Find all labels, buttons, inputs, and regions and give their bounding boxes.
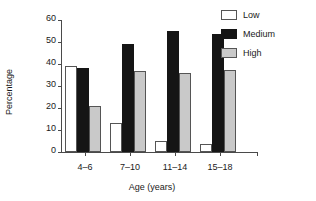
bar-high-0 (89, 106, 101, 152)
y-tick-label: 20 (46, 101, 56, 111)
legend-item-high: High (221, 46, 313, 62)
y-tick-label: 50 (46, 35, 56, 45)
y-tick-mark (58, 152, 62, 153)
legend-item-medium: Medium (221, 27, 313, 43)
y-tick-mark (58, 64, 62, 65)
x-axis-line (61, 152, 258, 153)
bar-medium-1 (122, 44, 134, 152)
y-tick-mark (58, 108, 62, 109)
x-axis-tick (130, 152, 131, 156)
y-tick-label: 60 (46, 13, 56, 23)
x-axis-label: 15–18 (207, 162, 232, 172)
y-tick-mark (58, 20, 62, 21)
y-tick-label: 40 (46, 57, 56, 67)
plot-area: 0102030405060 (62, 20, 242, 152)
legend-label-high: High (243, 46, 262, 60)
y-tick-label: 10 (46, 123, 56, 133)
x-axis-label: 7–10 (120, 162, 140, 172)
bar-low-3 (200, 144, 212, 152)
x-axis-title: Age (years) (62, 182, 242, 192)
x-axis-tick (220, 152, 221, 156)
y-tick-mark (58, 86, 62, 87)
bar-low-2 (155, 141, 167, 152)
chart-legend: Low Medium High (221, 8, 313, 65)
bar-chart-figure: Percentage 0102030405060 Age (years) Low… (0, 0, 316, 201)
bar-medium-0 (77, 68, 89, 152)
bar-low-0 (65, 66, 77, 152)
legend-label-medium: Medium (243, 27, 275, 41)
y-tick-label: 0 (51, 145, 56, 155)
y-axis-title: Percentage (2, 42, 16, 142)
x-axis-tick (175, 152, 176, 156)
bar-high-2 (179, 73, 191, 152)
bar-high-1 (134, 71, 146, 152)
bar-high-3 (224, 70, 236, 153)
y-tick-mark (58, 130, 62, 131)
y-tick-label: 30 (46, 79, 56, 89)
legend-swatch-high (221, 48, 237, 58)
y-axis-title-label: Percentage (2, 42, 16, 142)
legend-swatch-medium (221, 29, 237, 39)
y-tick-mark (58, 42, 62, 43)
x-axis-tick (85, 152, 86, 156)
x-axis-label: 11–14 (163, 162, 187, 172)
x-axis-tick-end (257, 152, 258, 156)
legend-item-low: Low (221, 8, 313, 24)
legend-swatch-low (221, 10, 237, 20)
bar-medium-2 (167, 31, 179, 152)
bar-low-1 (110, 123, 122, 152)
legend-label-low: Low (243, 8, 260, 22)
x-axis-label: 4–6 (77, 162, 92, 172)
